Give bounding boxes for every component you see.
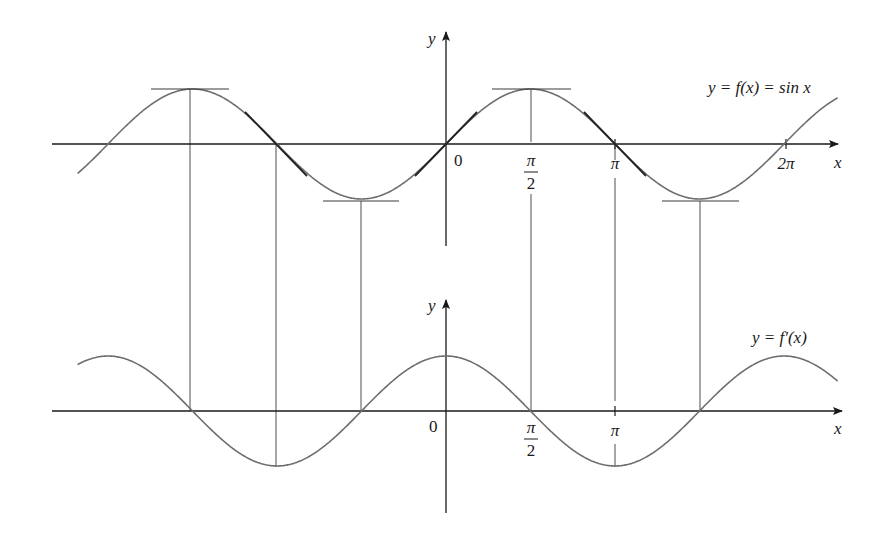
x-axis-label: x	[833, 419, 842, 438]
x-axis-label: x	[833, 153, 842, 172]
tick-label-pi: π	[611, 154, 620, 173]
origin-label: 0	[454, 151, 463, 170]
tick-label-pi-over-2-num: π	[527, 151, 536, 170]
tick-label-pi-over-2-den: 2	[527, 174, 536, 193]
tick-label-pi-over-2-num: π	[527, 418, 536, 437]
curve-label-sin: y = f(x) = sin x	[706, 78, 811, 97]
curve-label-derivative: y = f′(x)	[750, 328, 807, 347]
y-axis-label: y	[426, 296, 436, 315]
derivative-comparison-figure: y x 0 π 2 π 2π y = f(x) = sin x y x 0 π …	[0, 0, 882, 537]
tick-label-2pi: 2π	[777, 154, 795, 173]
top-graph: y x 0 π 2 π 2π y = f(x) = sin x	[52, 29, 842, 246]
tick-label-pi-over-2-den: 2	[527, 441, 536, 460]
origin-label: 0	[429, 417, 438, 436]
bottom-graph: y x 0 π 2 π y = f′(x)	[52, 296, 842, 513]
y-axis-label: y	[426, 29, 436, 48]
tick-label-pi: π	[611, 421, 620, 440]
